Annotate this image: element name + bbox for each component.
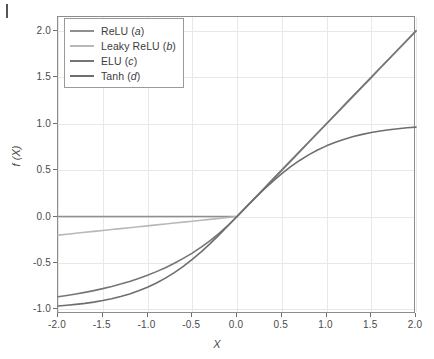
x-tick-mark	[281, 313, 282, 317]
legend-item-elu[interactable]: ELU (c)	[70, 53, 176, 68]
legend-item-label: ReLU (a)	[101, 25, 144, 37]
x-tick-label: -0.5	[182, 319, 200, 330]
x-tick-label: -1.0	[137, 319, 155, 330]
x-tick-label: 2.0	[408, 319, 423, 330]
chart-legend: ReLU (a)Leaky ReLU (b)ELU (c)Tanh (d)	[64, 18, 184, 88]
y-tick-mark	[53, 262, 57, 263]
legend-item-tanh[interactable]: Tanh (d)	[70, 68, 176, 83]
y-tick-label: 1.5	[36, 71, 51, 82]
x-tick-label: -1.5	[93, 319, 111, 330]
x-tick-label: 1.0	[318, 319, 333, 330]
legend-line-swatch	[70, 75, 94, 77]
y-tick-mark	[53, 169, 57, 170]
y-tick-mark	[53, 216, 57, 217]
x-tick-mark	[147, 313, 148, 317]
y-tick-label: 0.0	[36, 210, 51, 221]
y-tick-label: 0.5	[36, 164, 51, 175]
y-tick-label: 1.0	[36, 117, 51, 128]
x-tick-label: 0.0	[229, 319, 244, 330]
legend-item-leaky-relu[interactable]: Leaky ReLU (b)	[70, 38, 176, 53]
legend-item-relu[interactable]: ReLU (a)	[70, 23, 176, 38]
legend-line-swatch	[70, 60, 94, 62]
x-tick-mark	[370, 313, 371, 317]
legend-line-swatch	[70, 30, 94, 32]
x-tick-label: 0.5	[273, 319, 288, 330]
y-tick-mark	[53, 30, 57, 31]
y-tick-label: 2.0	[36, 24, 51, 35]
x-tick-label: 1.5	[363, 319, 378, 330]
legend-item-label: Leaky ReLU (b)	[101, 40, 176, 52]
y-tick-label: -0.5	[33, 256, 51, 267]
y-tick-mark	[53, 123, 57, 124]
legend-line-swatch	[70, 45, 94, 47]
gridline-vertical	[416, 17, 417, 312]
y-axis-label: f (X)	[10, 146, 22, 167]
y-tick-label: -1.0	[33, 303, 51, 314]
x-tick-label: -2.0	[48, 319, 66, 330]
activation-functions-figure: -2.0-1.5-1.0-0.50.00.51.01.52.0 2.01.51.…	[0, 0, 434, 359]
x-tick-mark	[102, 313, 103, 317]
page-corner-mark	[6, 4, 8, 18]
y-tick-mark	[53, 76, 57, 77]
x-tick-mark	[57, 313, 58, 317]
y-tick-mark	[53, 308, 57, 309]
x-tick-mark	[326, 313, 327, 317]
x-tick-mark	[236, 313, 237, 317]
legend-item-label: Tanh (d)	[101, 70, 140, 82]
x-tick-mark	[191, 313, 192, 317]
legend-item-label: ELU (c)	[101, 55, 137, 67]
x-tick-mark	[415, 313, 416, 317]
x-axis-label: X	[0, 338, 434, 350]
